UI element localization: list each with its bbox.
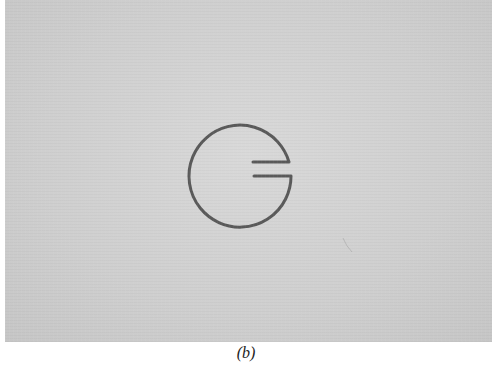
photograph: [5, 0, 492, 342]
figure-caption: (b): [0, 344, 492, 362]
split-ring-icon: [5, 0, 492, 342]
